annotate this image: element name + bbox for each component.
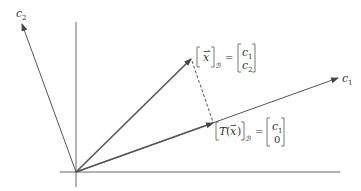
- diagram-svg: c 2 c 1 x ⇀ ℬ = c 1 c 2 T ( x ⇀ ) ℬ = c …: [0, 0, 361, 191]
- svg-text:2: 2: [22, 14, 26, 22]
- vector-Tx-coordinate-label: T ( x ⇀ ) ℬ = c 1 0: [216, 118, 284, 146]
- svg-text:⇀: ⇀: [230, 121, 237, 130]
- vector-x-coordinate-label: x ⇀ ℬ = c 1 c 2: [197, 44, 255, 74]
- svg-text:⇀: ⇀: [203, 46, 211, 56]
- svg-text:=: =: [255, 126, 263, 137]
- svg-text:): ): [237, 125, 241, 138]
- svg-text:2: 2: [248, 66, 252, 74]
- svg-text:=: =: [225, 52, 233, 63]
- c1-axis-label: c 1: [342, 72, 352, 87]
- svg-text:1: 1: [348, 79, 352, 87]
- c2-axis-label: c 2: [16, 7, 26, 22]
- vector-x-arrow: [76, 59, 191, 172]
- svg-text:1: 1: [248, 53, 252, 61]
- svg-text:ℬ: ℬ: [245, 135, 251, 143]
- c2-axis-arrow: [22, 24, 76, 172]
- projection-dashed-line: [192, 61, 213, 122]
- vector-Tx-arrow: [76, 123, 213, 172]
- svg-text:0: 0: [274, 134, 280, 145]
- diagram-canvas: c 2 c 1 x ⇀ ℬ = c 1 c 2 T ( x ⇀ ) ℬ = c …: [0, 0, 361, 191]
- svg-text:ℬ: ℬ: [215, 62, 221, 70]
